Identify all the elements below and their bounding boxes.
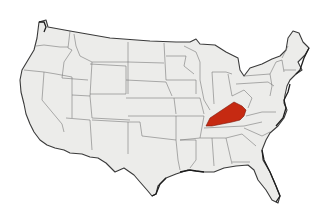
us-map (0, 0, 328, 223)
